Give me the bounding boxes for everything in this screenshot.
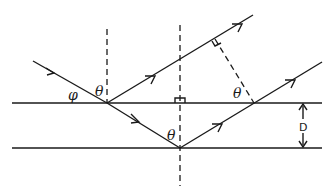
label-theta-left: θ bbox=[95, 83, 104, 99]
incident-arrow-icon bbox=[46, 68, 54, 75]
label-phi: φ bbox=[68, 87, 78, 103]
label-D: D bbox=[299, 121, 307, 134]
reflected-ray-lower bbox=[180, 62, 322, 148]
label-theta-bottom: θ bbox=[167, 127, 176, 143]
bragg-diagram: D φ θ θ θ bbox=[0, 0, 333, 194]
label-theta-right: θ bbox=[233, 85, 242, 101]
